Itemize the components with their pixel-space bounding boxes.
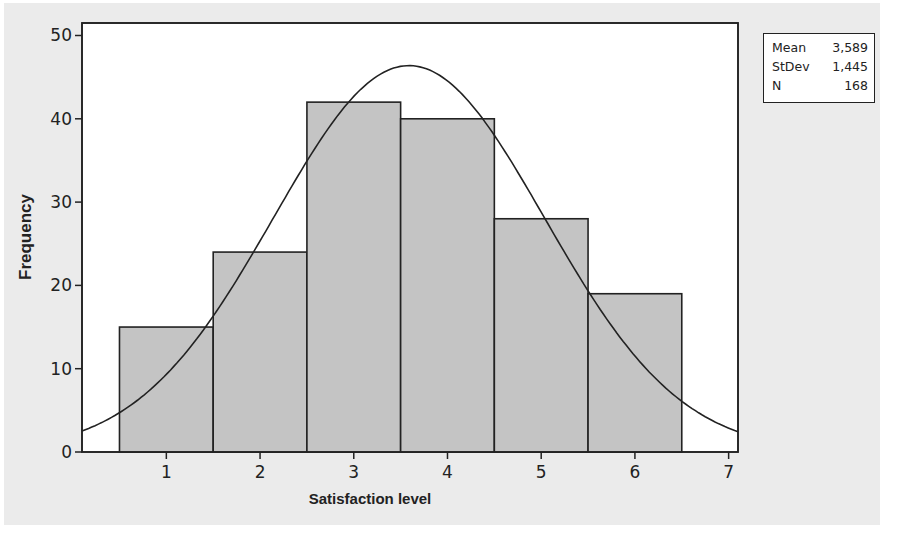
y-tick-label: 20 bbox=[50, 275, 72, 295]
histogram-bar bbox=[119, 327, 213, 452]
histogram-bar bbox=[401, 119, 495, 452]
histogram-bar bbox=[588, 294, 682, 452]
legend-label: Mean bbox=[772, 38, 806, 57]
legend-row-stdev: StDev 1,445 bbox=[772, 57, 868, 76]
y-tick-label: 10 bbox=[50, 359, 72, 379]
legend-value: 3,589 bbox=[832, 38, 868, 57]
x-tick-label: 7 bbox=[723, 462, 734, 482]
histogram-bar bbox=[213, 252, 307, 452]
x-tick-label: 1 bbox=[161, 462, 172, 482]
histogram-bar bbox=[307, 102, 401, 452]
histogram-bar bbox=[494, 219, 588, 452]
x-axis-title: Satisfaction level bbox=[309, 490, 432, 507]
legend-label: N bbox=[772, 76, 781, 95]
x-tick-label: 5 bbox=[536, 462, 547, 482]
statistics-legend: Mean 3,589 StDev 1,445 N 168 bbox=[763, 33, 875, 103]
legend-row-mean: Mean 3,589 bbox=[772, 38, 868, 57]
x-tick-label: 4 bbox=[442, 462, 453, 482]
legend-label: StDev bbox=[772, 57, 810, 76]
x-tick-label: 6 bbox=[630, 462, 641, 482]
x-tick-label: 2 bbox=[255, 462, 266, 482]
y-tick-label: 0 bbox=[61, 442, 72, 462]
y-tick-label: 50 bbox=[50, 25, 72, 45]
x-tick-label: 3 bbox=[348, 462, 359, 482]
y-tick-label: 30 bbox=[50, 192, 72, 212]
legend-value: 1,445 bbox=[832, 57, 868, 76]
legend-value: 168 bbox=[844, 76, 868, 95]
legend-row-n: N 168 bbox=[772, 76, 868, 95]
y-axis-title: Frequency bbox=[16, 193, 35, 280]
y-tick-label: 40 bbox=[50, 109, 72, 129]
